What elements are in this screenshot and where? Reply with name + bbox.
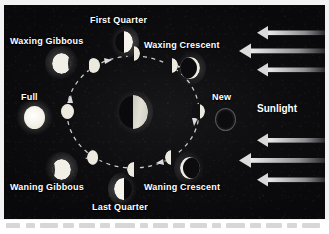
sunlight-ray-4: [257, 134, 325, 148]
phase-moon-first-quarter: [114, 31, 133, 53]
phase-moon-waning-gibbous: [52, 159, 71, 180]
moon-phases-figure: First Quarter Waxing Gibbous Waxing Cres…: [0, 0, 329, 234]
orbit-moon-full: [61, 104, 74, 119]
label-first-quarter: First Quarter: [90, 16, 147, 25]
label-new: New: [212, 93, 231, 102]
orbit-moon-waning-crescent: [165, 150, 178, 165]
sunlight-ray-5: [239, 153, 325, 168]
label-waning-crescent: Waning Crescent: [144, 183, 220, 192]
caption-strip: [0, 220, 329, 234]
orbit-moon-waxing-gibbous: [87, 58, 100, 73]
orbit-moon-waxing-crescent: [165, 58, 178, 73]
label-waning-gibbous: Waning Gibbous: [10, 183, 84, 192]
phase-moon-new: [215, 108, 236, 131]
phase-moon-waxing-gibbous: [52, 53, 71, 74]
label-last-quarter: Last Quarter: [92, 203, 148, 212]
orbit-moon-new: [192, 104, 205, 119]
orbit-moon-last-quarter: [127, 162, 140, 177]
label-full: Full: [21, 93, 38, 102]
night-sky-panel: First Quarter Waxing Gibbous Waxing Cres…: [4, 5, 325, 219]
earth-center-body: [118, 95, 148, 129]
sunlight-ray-6: [257, 173, 325, 187]
phase-moon-full: [24, 106, 45, 129]
orbit-moon-waning-gibbous: [87, 150, 100, 165]
phase-moon-last-quarter: [114, 178, 133, 200]
label-waxing-crescent: Waxing Crescent: [144, 41, 220, 50]
phase-moon-waxing-crescent: [180, 57, 200, 79]
label-waxing-gibbous: Waxing Gibbous: [10, 37, 83, 46]
phase-moon-waning-crescent: [180, 157, 200, 179]
sunlight-ray-1: [257, 26, 325, 40]
sunlight-ray-3: [257, 63, 325, 77]
sunlight-ray-2: [239, 44, 325, 59]
label-sunlight: Sunlight: [257, 103, 297, 114]
